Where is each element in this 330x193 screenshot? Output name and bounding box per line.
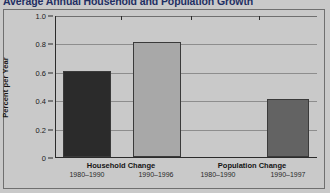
- x-axis-labels: Household Change Population Change 1980–…: [55, 159, 317, 187]
- gridline-1_0: [55, 16, 317, 17]
- y-tick-label: 0.2: [36, 125, 46, 134]
- x-axis-line: [55, 157, 317, 158]
- period-label: 1990–1996: [138, 171, 173, 178]
- y-tick-label: 0.4: [36, 97, 46, 106]
- bar-household-1980-1990: [63, 71, 111, 157]
- y-tick-label: 0.8: [36, 40, 46, 49]
- y-tick-label: 1.0: [36, 12, 46, 21]
- x-tick-mark: [259, 16, 260, 20]
- y-tick-label: 0.6: [36, 68, 46, 77]
- period-label: 1980–1990: [200, 171, 235, 178]
- y-tick-mark: [48, 101, 53, 102]
- x-tick-mark: [121, 16, 122, 20]
- bar-population-1990-1997: [267, 99, 309, 157]
- y-tick-mark: [48, 158, 53, 159]
- gridline-0_8: [55, 44, 317, 45]
- y-tick-label: 0: [42, 154, 46, 163]
- group-label-population: Population Change: [218, 161, 286, 170]
- y-axis-line: [55, 16, 56, 158]
- y-tick-mark: [48, 72, 53, 73]
- y-tick-mark: [48, 44, 53, 45]
- y-tick-mark: [48, 129, 53, 130]
- group-label-household: Household Change: [87, 161, 155, 170]
- x-tick-mark: [191, 16, 192, 20]
- y-tick-mark: [48, 16, 53, 17]
- plot-area: [55, 16, 317, 158]
- period-label: 1990–1997: [270, 171, 305, 178]
- period-label: 1980–1990: [69, 171, 104, 178]
- chart-figure: Average Annual Household and Population …: [0, 0, 330, 193]
- bar-household-1990-1996: [133, 42, 181, 157]
- chart-title: Average Annual Household and Population …: [3, 0, 253, 7]
- y-axis-ticks: 0 0.2 0.4 0.6 0.8 1.0: [0, 16, 55, 158]
